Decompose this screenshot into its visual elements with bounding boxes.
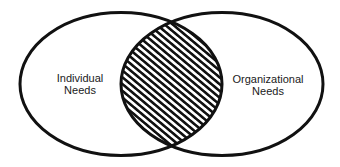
- organizational-needs-label-line1: Organizational: [226, 73, 310, 85]
- individual-needs-label-line2: Needs: [50, 84, 110, 96]
- individual-needs-label: Individual Needs: [50, 72, 110, 96]
- organizational-needs-label-line2: Needs: [226, 85, 310, 97]
- venn-diagram: Individual Needs Organizational Needs: [0, 0, 340, 167]
- individual-needs-label-line1: Individual: [50, 72, 110, 84]
- organizational-needs-label: Organizational Needs: [226, 73, 310, 97]
